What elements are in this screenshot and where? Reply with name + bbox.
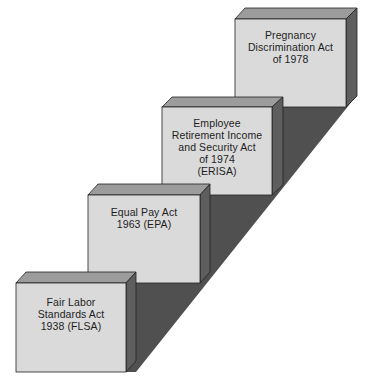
- step-label-line: 1938 (FLSA): [16, 320, 126, 332]
- step-label-epa: Equal Pay Act 1963 (EPA): [88, 206, 200, 230]
- step-label-flsa: Fair Labor Standards Act 1938 (FLSA): [16, 296, 126, 332]
- step-label-pda: Pregnancy Discrimination Act of 1978: [235, 29, 346, 65]
- step-label-line: 1963 (EPA): [88, 218, 200, 230]
- step-box-epa: [88, 184, 210, 283]
- step-label-line: Employee: [162, 117, 272, 129]
- step-label-line: Pregnancy: [235, 29, 346, 41]
- step-label-line: and Security Act: [162, 141, 272, 153]
- step-label-line: of 1978: [235, 53, 346, 65]
- step-label-line: (ERISA): [162, 165, 272, 177]
- step-label-line: Standards Act: [16, 308, 126, 320]
- step-label-erisa: Employee Retirement Income and Security …: [162, 117, 272, 177]
- step-label-line: of 1974: [162, 153, 272, 165]
- step-label-line: Discrimination Act: [235, 41, 346, 53]
- step-label-line: Retirement Income: [162, 129, 272, 141]
- step-label-line: Equal Pay Act: [88, 206, 200, 218]
- step-label-line: Fair Labor: [16, 296, 126, 308]
